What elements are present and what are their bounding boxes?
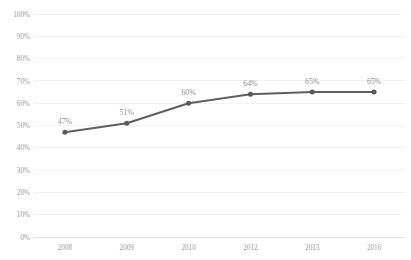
data-label-group: 47%51%60%64%65%65% [58, 77, 382, 126]
data-point-label: 47% [58, 117, 73, 126]
y-axis-tick-label: 60% [17, 100, 30, 108]
data-point-marker [186, 101, 191, 106]
data-point-label: 64% [243, 79, 258, 88]
data-point-marker [62, 130, 67, 135]
data-point-marker [310, 90, 315, 95]
data-point-marker [248, 92, 253, 97]
data-point-label: 65% [367, 77, 382, 86]
series-line-group [65, 92, 374, 132]
x-axis-tick-label: 2013 [305, 244, 320, 252]
y-axis-tick-label: 40% [17, 144, 30, 152]
y-axis-tick-label: 0% [20, 234, 30, 242]
x-axis-tick-labels: 200820092010201220132016 [58, 244, 382, 252]
data-point-label: 51% [120, 108, 135, 117]
chart-canvas: 0%10%20%30%40%50%60%70%80%90%100% 200820… [0, 0, 411, 260]
x-axis-tick-label: 2010 [181, 244, 196, 252]
x-axis-tick-label: 2012 [243, 244, 258, 252]
y-axis-tick-label: 70% [17, 78, 30, 86]
y-axis-tick-label: 20% [17, 189, 30, 197]
series-marker-group [62, 90, 376, 135]
x-axis-tick-label: 2008 [58, 244, 73, 252]
y-axis-tick-label: 10% [17, 211, 30, 219]
x-axis-tick-label: 2009 [120, 244, 135, 252]
series-line [65, 92, 374, 132]
line-chart: 0%10%20%30%40%50%60%70%80%90%100% 200820… [0, 0, 411, 260]
y-axis-tick-label: 80% [17, 55, 30, 63]
y-axis-tick-label: 90% [17, 33, 30, 41]
data-point-label: 65% [305, 77, 320, 86]
data-point-marker [372, 90, 377, 95]
data-point-label: 60% [181, 88, 196, 97]
y-axis-tick-label: 100% [13, 11, 30, 19]
y-axis-tick-labels: 0%10%20%30%40%50%60%70%80%90%100% [13, 11, 30, 242]
gridline-group [34, 14, 405, 237]
y-axis-tick-label: 30% [17, 167, 30, 175]
y-axis-tick-label: 50% [17, 122, 30, 130]
data-point-marker [124, 121, 129, 126]
x-axis-tick-label: 2016 [367, 244, 382, 252]
